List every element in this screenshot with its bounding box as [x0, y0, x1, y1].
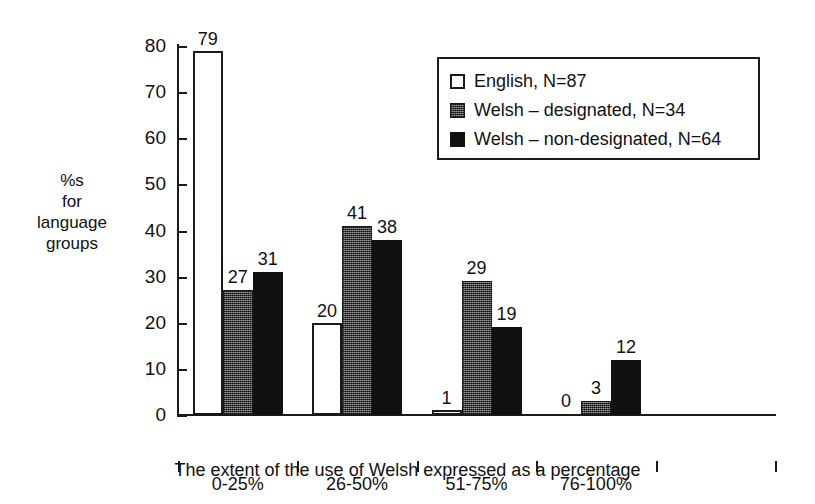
- legend-item: English, N=87: [450, 67, 748, 96]
- bar-value-label: 0: [561, 391, 571, 412]
- y-axis-tick-label: 20: [145, 311, 166, 333]
- legend-swatch-icon: [450, 132, 465, 147]
- y-axis-tick-label: 10: [145, 357, 166, 379]
- y-axis-tick-label: 80: [145, 35, 166, 57]
- y-axis-label: %s for language groups: [8, 170, 136, 254]
- bar: 41: [342, 226, 372, 415]
- y-axis-tick: [178, 138, 187, 140]
- y-axis-tick: [178, 415, 187, 417]
- y-axis-tick-label: 70: [145, 81, 166, 103]
- bar-value-label: 12: [616, 337, 636, 358]
- bar-value-label: 31: [258, 249, 278, 270]
- y-axis-label-line-3: language: [8, 212, 136, 233]
- bar-value-label: 29: [466, 258, 486, 279]
- bar: 29: [462, 281, 492, 415]
- y-axis-tick-label: 40: [145, 219, 166, 241]
- bar-value-label: 20: [317, 301, 337, 322]
- y-axis-tick-label: 50: [145, 173, 166, 195]
- y-axis-tick-label: 0: [155, 404, 166, 426]
- legend-item-label: Welsh – non-designated, N=64: [474, 129, 721, 150]
- bar-value-label: 3: [591, 378, 601, 399]
- y-axis-tick: [178, 46, 187, 48]
- bar-value-label: 79: [198, 29, 218, 50]
- bar: 79: [193, 51, 223, 415]
- y-axis-tick: [178, 184, 187, 186]
- y-axis-tick: [178, 277, 187, 279]
- bar-value-label: 41: [347, 203, 367, 224]
- bar: 3: [581, 401, 611, 415]
- x-axis-title: The extent of the use of Welsh expressed…: [0, 460, 815, 481]
- y-axis-tick-label: 60: [145, 127, 166, 149]
- legend-item: Welsh – non-designated, N=64: [450, 125, 748, 154]
- bar: 38: [372, 240, 402, 415]
- legend-swatch-icon: [450, 103, 465, 118]
- y-axis-tick: [178, 92, 187, 94]
- bar: 31: [253, 272, 283, 415]
- bar-chart: %s for language groups 01020304050607080…: [0, 0, 815, 504]
- legend-swatch-icon: [450, 74, 465, 89]
- y-axis-tick: [178, 369, 187, 371]
- y-axis-tick: [178, 323, 187, 325]
- legend-item-label: Welsh – designated, N=34: [474, 100, 685, 121]
- bar: 12: [611, 360, 641, 415]
- bar: 27: [223, 290, 253, 415]
- y-axis-tick: [178, 231, 187, 233]
- legend: English, N=87Welsh – designated, N=34Wel…: [437, 57, 760, 160]
- y-axis-tick-label: 30: [145, 265, 166, 287]
- bar-value-label: 38: [377, 217, 397, 238]
- y-axis-label-line-4: groups: [8, 233, 136, 254]
- bar: 20: [312, 323, 342, 415]
- legend-item: Welsh – designated, N=34: [450, 96, 748, 125]
- bar: 19: [492, 327, 522, 415]
- bar-value-label: 19: [496, 304, 516, 325]
- y-axis-label-line-1: %s: [8, 170, 136, 191]
- bar-value-label: 1: [441, 388, 451, 409]
- legend-item-label: English, N=87: [474, 71, 587, 92]
- bar: 1: [432, 410, 462, 415]
- y-axis-label-line-2: for: [8, 191, 136, 212]
- bar-value-label: 27: [228, 267, 248, 288]
